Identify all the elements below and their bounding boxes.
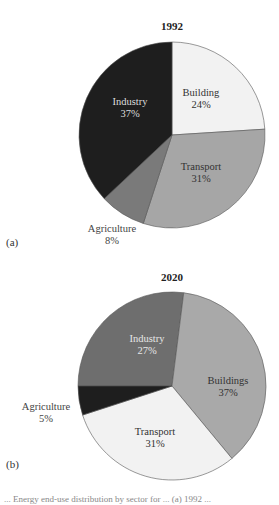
figure-caption: ... Energy end-use distribution by secto… [4,494,211,504]
chart-title: 2020 [161,271,184,283]
panel-label: (b) [6,458,19,471]
slice-label-agriculture: Agriculture8% [88,223,137,246]
pie-charts: 1992Building24%Transport31%Agriculture8%… [0,0,279,505]
panel-label: (a) [6,236,19,249]
slice-label-agriculture: Agriculture5% [22,401,71,424]
chart-title: 1992 [161,20,184,32]
pie-chart-2020: 2020Industry27%Buildings37%Transport31%A… [6,271,266,480]
pie-chart-1992: 1992Building24%Transport31%Agriculture8%… [6,20,265,249]
